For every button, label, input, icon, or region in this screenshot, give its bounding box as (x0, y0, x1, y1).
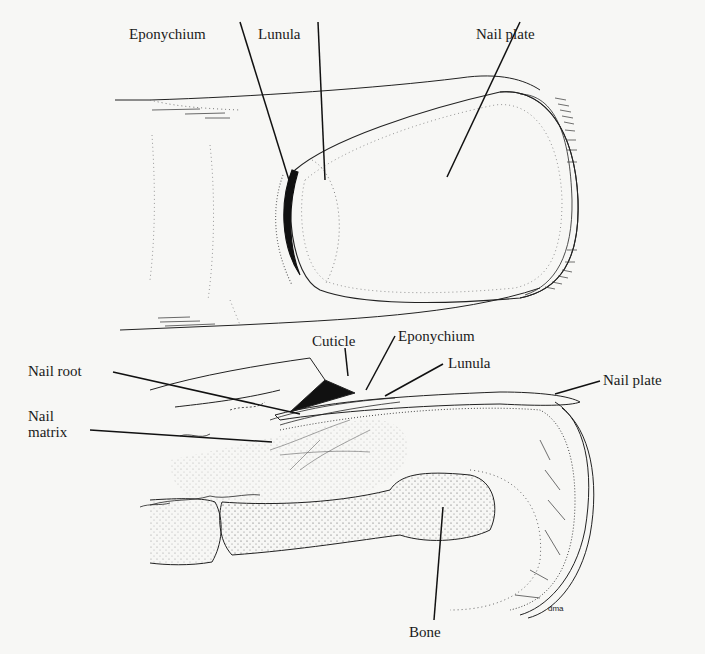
label-eponychium-section: Eponychium (398, 328, 475, 344)
top-view-nail (276, 92, 579, 303)
label-nail-matrix-line2: matrix (28, 424, 67, 440)
nail-anatomy-diagram: Eponychium Lunula Nail plate Cuticle Epo… (0, 0, 705, 654)
artist-signature: dma (548, 604, 564, 613)
label-eponychium-top: Eponychium (129, 26, 206, 42)
label-nail-plate-section: Nail plate (603, 372, 662, 388)
cross-section (140, 358, 594, 618)
label-lunula-section: Lunula (448, 355, 491, 371)
diagram-artwork (0, 0, 705, 654)
top-view-leaders (240, 22, 520, 193)
label-cuticle: Cuticle (312, 333, 355, 349)
label-nail-root: Nail root (28, 363, 82, 379)
label-lunula-top: Lunula (258, 26, 301, 42)
label-nail-matrix-line1: Nail (28, 408, 54, 424)
label-bone: Bone (409, 624, 441, 640)
label-nail-plate-top: Nail plate (476, 26, 535, 42)
